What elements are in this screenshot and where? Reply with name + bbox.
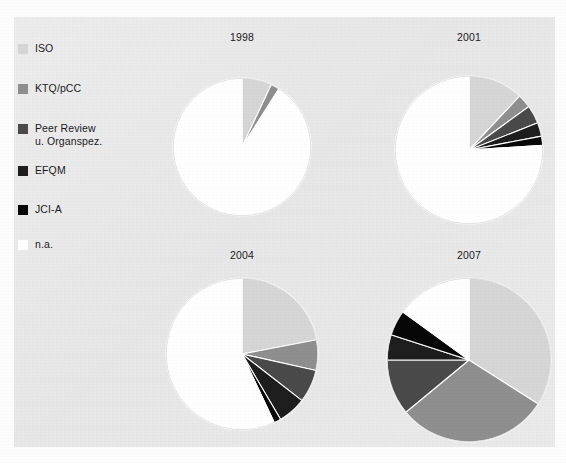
legend-item-3: EFQM — [18, 164, 66, 177]
pie-panel-2001: 2001 — [369, 31, 566, 245]
legend-label-0: ISO — [35, 42, 53, 55]
pie-chart-1998 — [172, 77, 312, 217]
legend-swatch-icon-3 — [18, 166, 28, 176]
legend-label-2: Peer Review u. Organspez. — [35, 122, 102, 148]
pie-title-2004: 2004 — [142, 249, 342, 261]
pie-chart-2007 — [386, 277, 552, 443]
legend-swatch-icon-5 — [18, 240, 28, 250]
legend-item-2: Peer Review u. Organspez. — [18, 122, 102, 148]
legend-label-1: KTQ/pCC — [35, 82, 81, 95]
pie-title-2001: 2001 — [369, 31, 566, 43]
pie-svg-2001 — [394, 75, 544, 225]
legend-item-0: ISO — [18, 42, 53, 55]
legend-item-5: n.a. — [18, 238, 53, 251]
legend-label-5: n.a. — [35, 238, 53, 251]
legend-item-4: JCI-A — [18, 203, 62, 216]
pie-panel-2007: 2007 — [369, 249, 566, 449]
legend-swatch-icon-1 — [18, 84, 28, 94]
legend-label-3: EFQM — [35, 164, 66, 177]
pie-panel-2004: 2004 — [142, 249, 342, 449]
legend-swatch-icon-4 — [18, 205, 28, 215]
chart-legend: ISOKTQ/pCCPeer Review u. Organspez.EFQMJ… — [18, 25, 142, 247]
pie-panel-1998: 1998 — [142, 31, 342, 245]
pie-svg-2007 — [386, 277, 552, 443]
legend-item-1: KTQ/pCC — [18, 82, 81, 95]
pie-chart-2004 — [165, 277, 319, 431]
legend-swatch-icon-2 — [18, 124, 28, 134]
pie-title-2007: 2007 — [369, 249, 566, 261]
pie-svg-1998 — [172, 77, 312, 217]
pie-svg-2004 — [165, 277, 319, 431]
pie-chart-2001 — [394, 75, 544, 225]
legend-label-4: JCI-A — [35, 203, 62, 216]
figure-panel: ISOKTQ/pCCPeer Review u. Organspez.EFQMJ… — [14, 17, 555, 447]
legend-swatch-icon-0 — [18, 44, 28, 54]
figure-page: ISOKTQ/pCCPeer Review u. Organspez.EFQMJ… — [0, 0, 566, 463]
pie-title-1998: 1998 — [142, 31, 342, 43]
